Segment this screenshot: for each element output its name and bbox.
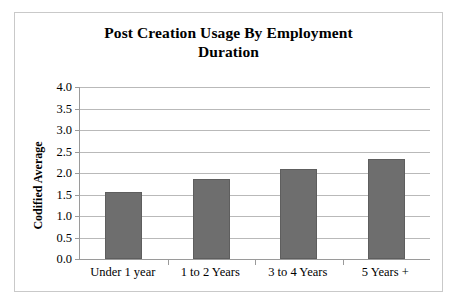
y-tick-mark xyxy=(75,259,80,260)
bar-series xyxy=(80,87,430,259)
y-tick-label: 1.0 xyxy=(56,209,72,224)
bar[interactable] xyxy=(368,159,405,259)
x-tick-label: 1 to 2 Years xyxy=(167,265,255,280)
bar-slot xyxy=(343,87,431,259)
y-tick-label: 3.0 xyxy=(56,123,72,138)
bar-slot xyxy=(80,87,168,259)
y-tick-label: 3.5 xyxy=(56,101,72,116)
x-tick-label: Under 1 year xyxy=(79,265,167,280)
bar[interactable] xyxy=(280,169,317,259)
chart-title-line-2: Duration xyxy=(15,42,442,61)
plot-area: 0.00.51.01.52.02.53.03.54.0 xyxy=(79,87,430,260)
chart-title-line-1: Post Creation Usage By Employment xyxy=(15,23,442,42)
y-tick-label: 0.0 xyxy=(56,252,72,267)
chart-figure: Post Creation Usage By Employment Durati… xyxy=(14,12,443,292)
y-axis-title-label: Codified Average xyxy=(31,141,46,229)
y-tick-label: 0.5 xyxy=(56,230,72,245)
x-tick-label: 5 Years + xyxy=(342,265,430,280)
bar-slot xyxy=(168,87,256,259)
x-tick-label: 3 to 4 Years xyxy=(254,265,342,280)
bar-slot xyxy=(255,87,343,259)
y-tick-label: 2.5 xyxy=(56,144,72,159)
bar[interactable] xyxy=(105,192,142,260)
bar[interactable] xyxy=(193,179,230,259)
y-axis-title: Codified Average xyxy=(31,105,45,265)
y-tick-label: 2.0 xyxy=(56,166,72,181)
y-tick-label: 4.0 xyxy=(56,80,72,95)
x-axis-tick-labels: Under 1 year1 to 2 Years3 to 4 Years5 Ye… xyxy=(79,265,429,280)
chart-title: Post Creation Usage By Employment Durati… xyxy=(15,23,442,61)
y-tick-label: 1.5 xyxy=(56,187,72,202)
